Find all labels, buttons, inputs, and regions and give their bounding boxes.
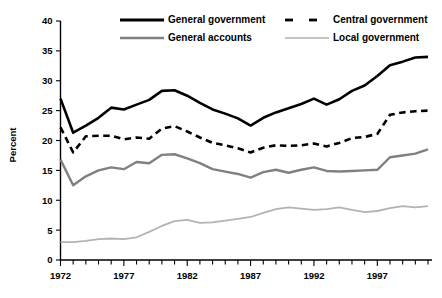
y-axis-title: Percent	[7, 127, 18, 163]
y-tick-label: 10	[42, 195, 53, 206]
legend-label-general-accounts: General accounts	[168, 32, 252, 43]
y-tick-label: 30	[42, 75, 53, 86]
y-axis: 0510152025303540	[42, 15, 61, 265]
legend-label-local-government: Local government	[333, 32, 420, 43]
legend-label-central-government: Central government	[333, 14, 428, 25]
y-tick-label: 35	[42, 45, 53, 56]
y-tick-label: 15	[42, 165, 53, 176]
x-tick-label: 1972	[50, 270, 71, 281]
series-line-general-accounts	[61, 149, 429, 185]
series-line-local-government	[61, 206, 429, 242]
x-tick-label: 1992	[303, 270, 324, 281]
x-tick-label: 1977	[113, 270, 134, 281]
series-line-central-government	[61, 111, 429, 153]
line-chart: General government Central government Ge…	[0, 0, 442, 298]
chart-container: General government Central government Ge…	[0, 0, 442, 298]
series-layer	[61, 57, 429, 242]
legend-label-general-government: General government	[168, 14, 266, 25]
y-tick-label: 5	[47, 225, 53, 236]
y-tick-label: 20	[42, 135, 53, 146]
y-tick-label: 40	[42, 15, 53, 26]
x-axis: 197219771982198719921997	[50, 260, 432, 281]
legend: General government Central government Ge…	[120, 14, 428, 43]
series-line-general-government	[61, 57, 429, 133]
x-tick-label: 1987	[240, 270, 261, 281]
y-tick-label: 25	[42, 105, 53, 116]
x-tick-label: 1982	[177, 270, 198, 281]
y-tick-label: 0	[47, 254, 52, 265]
x-tick-label: 1997	[367, 270, 388, 281]
